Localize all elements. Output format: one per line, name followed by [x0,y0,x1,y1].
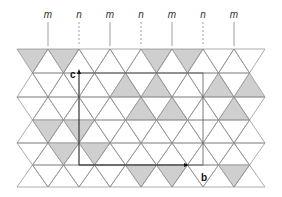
c-axis-label: c [70,69,76,80]
glide-plane-label: n [138,9,144,20]
symmetry-labels: mnmnmnm [44,9,238,20]
mirror-plane-label: m [230,9,238,20]
symmetry-planes [48,22,234,46]
b-axis-label: b [201,172,207,183]
crystal-structure-diagram: c b mnmnmnm [0,0,282,197]
glide-plane-label: n [200,9,206,20]
mirror-plane-label: m [168,9,176,20]
octahedral-framework: c b mnmnmnm [0,0,282,197]
octahedra-triangles [17,49,265,187]
glide-plane-label: n [76,9,82,20]
mirror-plane-label: m [44,9,52,20]
mirror-plane-label: m [106,9,114,20]
